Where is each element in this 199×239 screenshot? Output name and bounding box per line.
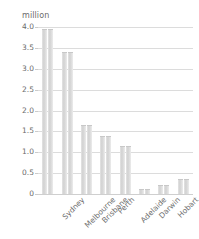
bar-group <box>116 27 135 194</box>
axis-unit-label: million <box>22 11 49 20</box>
bar <box>126 146 131 194</box>
bar-chart: million 4.03.53.02.52.01.51.00.50 Sydney… <box>0 0 199 239</box>
bar <box>62 52 67 194</box>
bar <box>48 29 53 194</box>
bar <box>42 29 47 194</box>
y-axis-tick-label: 3.5 <box>22 44 34 52</box>
y-axis-tick-mark <box>35 194 38 195</box>
bar-group <box>57 27 76 194</box>
bar <box>120 146 125 194</box>
bar <box>68 52 73 194</box>
gridline <box>38 194 193 195</box>
bar <box>184 179 189 194</box>
bar-group <box>174 27 193 194</box>
bar-group <box>77 27 96 194</box>
plot-area: 4.03.53.02.52.01.51.00.50 <box>38 27 193 194</box>
bar <box>164 185 169 194</box>
bar <box>178 179 183 194</box>
y-axis-tick-label: 2.0 <box>22 107 34 115</box>
bar <box>100 136 105 194</box>
category-label: Sydney <box>61 196 86 221</box>
y-axis-tick-label: 0.5 <box>22 169 34 177</box>
y-axis-tick-label: 1.5 <box>22 128 34 136</box>
bar <box>158 185 163 194</box>
category-axis-labels: SydneyMelbourneBrisbanePerthAdelaideDarw… <box>38 196 193 239</box>
y-axis-tick-label: 0 <box>29 190 34 198</box>
bar-group <box>154 27 173 194</box>
bar-group <box>135 27 154 194</box>
bar <box>81 125 86 194</box>
bar <box>106 136 111 194</box>
bar-group <box>38 27 57 194</box>
bar <box>145 189 150 194</box>
bar <box>87 125 92 194</box>
y-axis-tick-label: 2.5 <box>22 86 34 94</box>
bars-layer <box>38 27 193 194</box>
y-axis-tick-label: 3.0 <box>22 65 34 73</box>
bar-group <box>96 27 115 194</box>
y-axis-tick-label: 4.0 <box>22 23 34 31</box>
y-axis-tick-label: 1.0 <box>22 149 34 157</box>
bar <box>139 189 144 194</box>
